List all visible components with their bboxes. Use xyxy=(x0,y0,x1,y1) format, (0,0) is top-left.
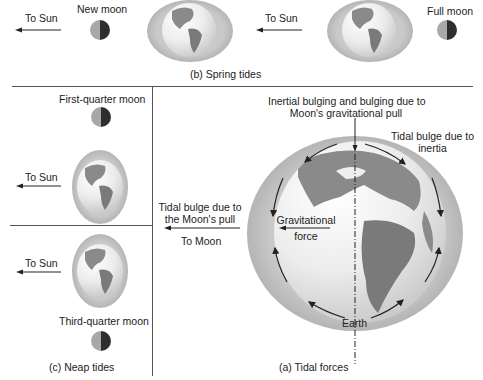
arrow-to-moon-icon xyxy=(164,225,244,231)
vertical-divider xyxy=(152,86,153,376)
neap-tides-caption: (c) Neap tides xyxy=(49,361,114,373)
earth-globe-icon xyxy=(77,160,123,214)
to-sun-label: To Sun xyxy=(25,171,58,183)
to-moon-label: To Moon xyxy=(181,235,221,247)
new-moon-icon xyxy=(90,20,110,40)
to-sun-label: To Sun xyxy=(25,257,58,269)
first-quarter-moon-icon xyxy=(91,107,111,127)
moon-pull-bulge-label-line1: Tidal bulge due to xyxy=(155,201,245,213)
full-moon-label: Full moon xyxy=(427,5,473,17)
moon-pull-bulge-label-line2: the Moon's pull xyxy=(155,213,245,225)
arrow-left-icon xyxy=(256,27,304,33)
new-moon-label: New moon xyxy=(77,3,127,15)
earth-globe-icon xyxy=(77,244,123,298)
spring-tides-caption: (b) Spring tides xyxy=(190,68,261,80)
third-quarter-moon-label: Third-quarter moon xyxy=(59,315,149,327)
earth-label: Earth xyxy=(342,317,367,329)
first-quarter-moon-label: First-quarter moon xyxy=(59,93,145,105)
inertial-bulging-label-line1: Inertial bulging and bulging due to xyxy=(268,95,424,107)
to-sun-label: To Sun xyxy=(25,12,58,24)
earth-globe-icon xyxy=(342,3,396,57)
tidal-forces-caption: (a) Tidal forces xyxy=(279,361,348,373)
arrow-left-icon xyxy=(16,269,62,275)
arrow-left-icon xyxy=(16,183,62,189)
full-moon-icon xyxy=(437,20,457,40)
gravitational-force-label-line2: force xyxy=(275,230,337,242)
earth-globe-icon xyxy=(162,3,216,57)
third-quarter-moon-icon xyxy=(91,331,111,351)
arrow-left-icon xyxy=(15,27,63,33)
to-sun-label: To Sun xyxy=(265,12,298,24)
horizontal-divider xyxy=(12,86,473,87)
inertial-bulging-label-line2: Moon's gravitational pull xyxy=(268,107,424,119)
neap-divider xyxy=(10,225,152,226)
